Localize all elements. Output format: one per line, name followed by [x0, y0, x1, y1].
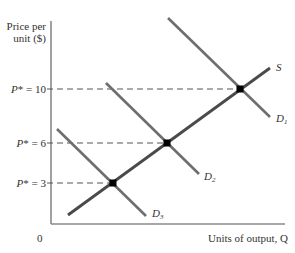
- demand-curve-d3-label: D3: [152, 207, 163, 223]
- equilibrium-point-p3: [110, 180, 117, 187]
- supply-curve-label: S: [276, 61, 282, 73]
- demand-curve-d1-label: D1: [276, 112, 287, 128]
- price-label-p10: P* = 10: [0, 83, 46, 95]
- supply-demand-diagram: Price per unit ($) P* = 10 P* = 6 P* = 3…: [0, 0, 295, 253]
- y-axis-label-line1: Price per: [0, 20, 46, 32]
- demand-curve-d3: [57, 129, 146, 216]
- y-axis-label: Price per unit ($): [0, 20, 46, 44]
- price-label-p6: P* = 6: [0, 137, 46, 149]
- origin-label: 0: [37, 232, 43, 244]
- y-axis-label-line2: unit ($): [0, 32, 46, 44]
- x-axis-label: Units of output, Q: [208, 232, 288, 244]
- equilibrium-point-p10: [237, 86, 244, 93]
- demand-curve-d1: [168, 18, 270, 117]
- equilibrium-point-p6: [164, 140, 171, 147]
- demand-curve-d2-label: D2: [204, 170, 215, 186]
- price-label-p3: P* = 3: [0, 177, 46, 189]
